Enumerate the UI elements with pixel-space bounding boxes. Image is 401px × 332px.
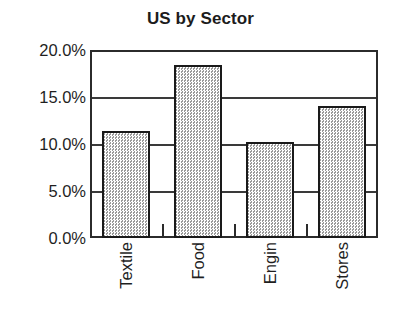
y-axis-tick-label: 15.0% bbox=[4, 88, 86, 107]
y-axis-tick-label: 10.0% bbox=[4, 135, 86, 154]
x-axis-tick bbox=[162, 224, 164, 238]
bar-slot-textile bbox=[90, 50, 162, 238]
x-axis-tick bbox=[306, 224, 308, 238]
y-axis-tick-label: 0.0% bbox=[4, 229, 86, 248]
bar-stores[interactable] bbox=[318, 106, 366, 238]
x-axis-label-slot: Engin bbox=[234, 242, 306, 330]
bar-slot-food bbox=[162, 50, 234, 238]
y-axis-tick-label: 5.0% bbox=[4, 182, 86, 201]
y-axis-tick-label: 20.0% bbox=[4, 41, 86, 60]
chart-title: US by Sector bbox=[0, 9, 401, 29]
x-axis-label-slot: Stores bbox=[306, 242, 378, 330]
y-axis: 20.0% 15.0% 10.0% 5.0% 0.0% bbox=[0, 50, 86, 238]
bar-food[interactable] bbox=[174, 65, 222, 238]
x-axis-tick-label: Food bbox=[190, 242, 207, 280]
x-axis: Textile Food Engin Stores bbox=[90, 242, 378, 330]
bars-layer bbox=[90, 50, 378, 238]
x-axis-label-slot: Textile bbox=[90, 242, 162, 330]
x-axis-tick-label: Stores bbox=[334, 242, 351, 290]
bar-chart: US by Sector 20.0% 15.0% 10.0% 5.0% 0.0% bbox=[0, 0, 401, 332]
x-axis-tick bbox=[234, 224, 236, 238]
x-axis-ticks bbox=[90, 222, 378, 238]
bar-slot-stores bbox=[306, 50, 378, 238]
x-axis-label-slot: Food bbox=[162, 242, 234, 330]
x-axis-tick-label: Engin bbox=[262, 242, 279, 284]
bar-slot-engin bbox=[234, 50, 306, 238]
x-axis-tick-label: Textile bbox=[118, 242, 135, 289]
